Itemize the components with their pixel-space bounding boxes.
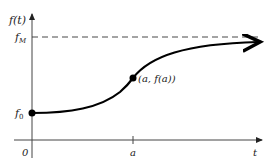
logistic-curve-diagram: f(t) fM f0 0 a t (a, f(a)) — [0, 0, 272, 164]
inflection-point-label: (a, f(a)) — [138, 73, 176, 84]
inflection-point — [130, 75, 137, 82]
origin-label: 0 — [22, 147, 29, 158]
x-axis-label: t — [253, 147, 258, 158]
tick-label-a: a — [130, 147, 136, 158]
initial-point — [29, 110, 36, 117]
initial-value-label: f0 — [14, 107, 24, 121]
upper-asymptote-label: fM — [14, 31, 27, 45]
y-axis-label: f(t) — [8, 14, 26, 27]
